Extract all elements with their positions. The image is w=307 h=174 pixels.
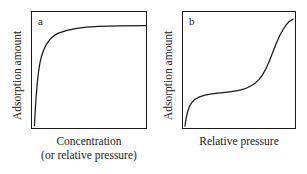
curve-panel-b bbox=[183, 12, 295, 128]
y-axis-label-panel-a: Adsorption amount bbox=[11, 31, 23, 120]
adsorption-isotherm-figure: Adsorption amount a Concentration (or re… bbox=[0, 0, 307, 174]
curve-panel-a bbox=[32, 12, 146, 128]
panel-letter-a: a bbox=[38, 16, 43, 27]
x-axis-label-panel-a-line2: (or relative pressure) bbox=[14, 148, 164, 162]
plot-area-panel-a bbox=[31, 11, 147, 129]
panel-b: Adsorption amount b Relative pressure bbox=[155, 0, 307, 174]
x-axis-label-panel-a-line1: Concentration bbox=[56, 135, 121, 147]
x-axis-label-panel-b: Relative pressure bbox=[161, 134, 307, 148]
panel-a: Adsorption amount a Concentration (or re… bbox=[0, 0, 155, 174]
plot-area-panel-b bbox=[182, 11, 296, 129]
panel-letter-b: b bbox=[189, 16, 195, 27]
y-axis-label-panel-b: Adsorption amount bbox=[162, 31, 174, 120]
x-axis-label-panel-b-line1: Relative pressure bbox=[199, 135, 279, 147]
x-axis-label-panel-a: Concentration (or relative pressure) bbox=[14, 134, 164, 162]
